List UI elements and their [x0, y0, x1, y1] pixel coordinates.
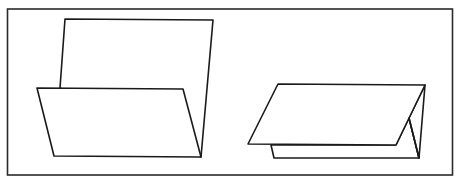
front-panel: [248, 84, 425, 145]
standing-fold-card: [37, 19, 213, 157]
tent-fold-card: [248, 84, 425, 158]
folded-cards-illustration: [0, 0, 459, 183]
diagram-canvas: [0, 0, 459, 183]
front-panel: [37, 88, 201, 157]
